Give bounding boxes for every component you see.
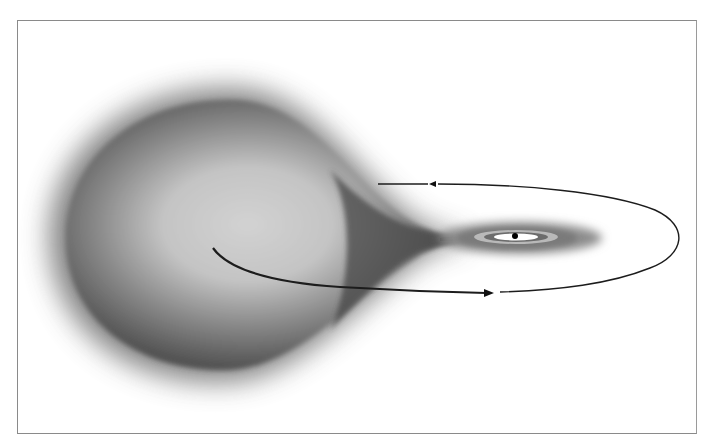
binary-star-diagram	[0, 0, 714, 444]
donor-star	[50, 88, 472, 382]
orbit-arrow-top-icon	[429, 181, 436, 187]
compact-object	[512, 233, 518, 239]
accretion-disk	[438, 222, 602, 254]
orbit-arrow-bottom-icon	[484, 289, 494, 297]
